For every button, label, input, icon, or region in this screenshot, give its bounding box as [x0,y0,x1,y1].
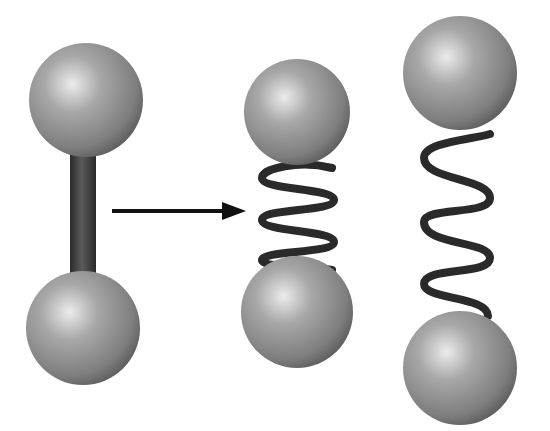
atom-top-middle [244,59,350,165]
rigid-bond-rod [70,150,96,280]
atom-bottom-middle [241,256,353,368]
compressed-spring-molecule [241,59,353,368]
molecule-diagram [0,0,550,431]
atom-bottom-left [26,271,140,385]
atom-top-right [403,16,517,130]
spring-compressed [262,165,334,270]
transform-arrow [112,202,246,220]
diagram-stage [0,0,550,431]
atom-bottom-right [403,311,517,425]
spring-stretched [424,134,490,316]
rigid-molecule [26,43,143,385]
atom-top-left [29,43,143,157]
stretched-spring-molecule [403,16,517,425]
